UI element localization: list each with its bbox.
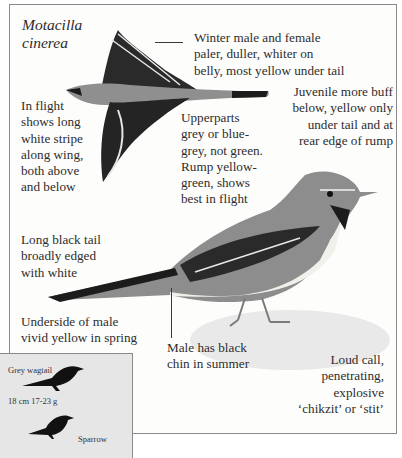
- winter-plumage-note: Winter male and female paler, duller, wh…: [194, 30, 344, 79]
- leader-line-chin: [171, 288, 172, 338]
- juvenile-note: Juvenile more buff below, yellow only un…: [292, 84, 393, 149]
- in-flight-note: In flight shows long white stripe along …: [21, 98, 83, 196]
- chin-note: Male has black chin in summer: [167, 340, 249, 373]
- call-note: Loud call, penetrating, explosive ‘chikz…: [298, 352, 384, 417]
- size-comparison-inset: Grey wagtail 18 cm 17-23 g Sparrow: [0, 353, 133, 458]
- wagtail-silhouette-icon: [22, 364, 82, 394]
- sparrow-silhouette-icon: [28, 414, 78, 444]
- upperparts-note: Upperparts grey or blue- grey, not green…: [181, 110, 263, 208]
- underside-note: Underside of male vivid yellow in spring: [21, 314, 137, 347]
- leader-line-winter: [155, 42, 183, 43]
- sparrow-label: Sparrow: [78, 434, 107, 444]
- tail-note: Long black tail broadly edged with white: [21, 232, 101, 281]
- wagtail-size: 18 cm 17-23 g: [8, 396, 57, 406]
